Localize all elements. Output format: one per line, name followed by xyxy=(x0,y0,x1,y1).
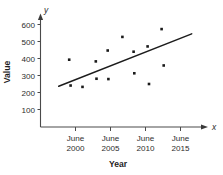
y-tick-label-100: 100 xyxy=(21,106,35,115)
x-tick-label-2005-year: 2005 xyxy=(101,144,120,153)
y-tick-label-300: 300 xyxy=(21,72,35,81)
data-point xyxy=(68,58,71,61)
x-axis-title: Year xyxy=(109,159,128,169)
data-point xyxy=(162,64,165,67)
x-axis-arrowhead xyxy=(201,124,208,129)
x-tick-label-2010-month: June xyxy=(137,134,155,143)
x-axis-name: x xyxy=(211,122,217,132)
y-axis-arrowhead xyxy=(38,14,43,21)
data-point xyxy=(148,83,151,86)
y-tick-label-600: 600 xyxy=(21,21,35,30)
data-point xyxy=(95,60,98,63)
data-point xyxy=(160,28,163,31)
data-point xyxy=(132,50,135,53)
x-tick-marks xyxy=(76,127,181,131)
y-tick-label-500: 500 xyxy=(21,38,35,47)
data-point xyxy=(146,45,149,48)
data-point-group xyxy=(68,28,165,88)
chart-canvas: y x 600 500 400 300 200 100 Value June 2 xyxy=(0,0,223,175)
scatter-plot-figure: y x 600 500 400 300 200 100 Value June 2 xyxy=(0,0,223,175)
data-point xyxy=(106,49,109,52)
y-axis-title: Value xyxy=(2,61,12,84)
data-point xyxy=(107,78,110,81)
x-tick-label-2000-year: 2000 xyxy=(66,144,85,153)
y-tick-label-200: 200 xyxy=(21,89,35,98)
trend-line xyxy=(59,34,192,86)
data-point xyxy=(69,84,72,87)
data-point xyxy=(95,77,98,80)
data-point xyxy=(121,36,124,39)
x-tick-label-2015-month: June xyxy=(172,134,190,143)
x-tick-label-2015-year: 2015 xyxy=(171,144,190,153)
y-axis-name: y xyxy=(43,5,49,15)
y-tick-label-400: 400 xyxy=(21,55,35,64)
data-point xyxy=(81,86,84,89)
x-tick-label-2005-month: June xyxy=(102,134,120,143)
data-point xyxy=(133,72,136,75)
x-tick-label-2000-month: June xyxy=(67,134,85,143)
x-tick-label-2010-year: 2010 xyxy=(136,144,155,153)
